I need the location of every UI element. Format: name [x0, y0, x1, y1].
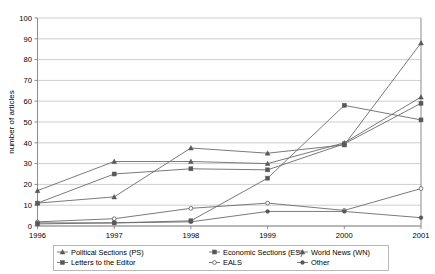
y-tick-label: 20 [24, 180, 32, 189]
data-point [342, 210, 346, 214]
y-tick-label: 90 [24, 35, 32, 44]
x-tick-label: 2001 [413, 231, 430, 240]
data-point [419, 118, 423, 122]
data-point [266, 210, 270, 214]
y-axis-title: number of articles [7, 90, 16, 154]
data-point [266, 201, 270, 205]
legend-item-label: Other [311, 258, 330, 267]
y-tick-label: 10 [24, 201, 32, 210]
data-point [112, 217, 116, 221]
x-tick-label: 1999 [259, 231, 276, 240]
data-point [112, 221, 116, 225]
data-point [419, 101, 423, 105]
y-tick-label: 60 [24, 97, 32, 106]
x-tick-label: 1997 [106, 231, 123, 240]
chart-canvas: 0102030405060708090100 19961997199819992… [0, 0, 435, 274]
y-tick-label: 0 [28, 222, 32, 231]
y-tick-label: 40 [24, 139, 32, 148]
data-point [266, 168, 270, 172]
x-tick-label: 1996 [29, 231, 46, 240]
legend-item-label: World News (WN) [311, 248, 370, 257]
legend-item-label: Letters to the Editor [71, 258, 136, 267]
legend-item-label: Economic Sections (ES) [223, 248, 303, 257]
data-point [112, 172, 116, 176]
y-tick-label: 80 [24, 55, 32, 64]
x-tick-label: 2000 [336, 231, 353, 240]
data-point [189, 167, 193, 171]
y-tick-label: 100 [19, 14, 32, 23]
data-point [36, 221, 40, 225]
data-point [189, 206, 193, 210]
y-tick-label: 30 [24, 159, 32, 168]
data-point [266, 176, 270, 180]
x-tick-label: 1998 [182, 231, 199, 240]
legend-marker [301, 261, 305, 265]
data-point [419, 216, 423, 220]
legend-marker [61, 261, 65, 265]
legend-marker [213, 261, 217, 265]
legend-marker [213, 250, 217, 254]
chart-background [0, 0, 435, 274]
y-tick-label: 50 [24, 118, 32, 127]
line-chart: 0102030405060708090100 19961997199819992… [0, 0, 435, 274]
data-point [342, 103, 346, 107]
data-point [419, 187, 423, 191]
y-tick-label: 70 [24, 76, 32, 85]
data-point [189, 220, 193, 224]
legend-item-label: Political Sections (PS) [71, 248, 144, 257]
legend-item-label: EALS [223, 258, 242, 267]
